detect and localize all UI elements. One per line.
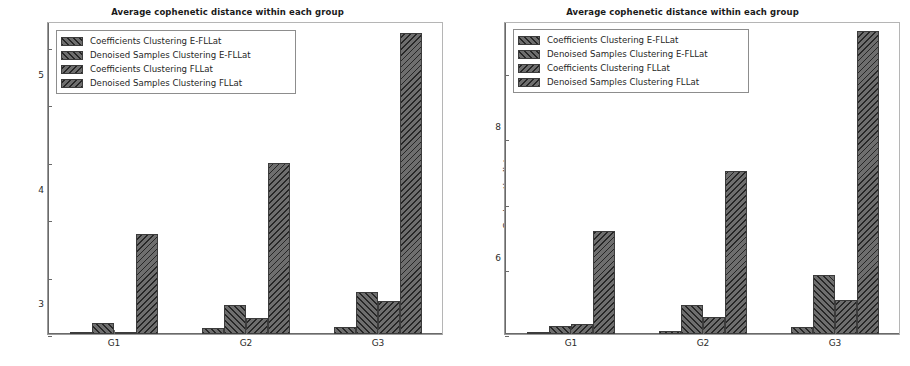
legend-item: Coefficients Clustering FLLat — [518, 61, 742, 75]
x-tick-label: G2 — [697, 338, 710, 348]
y-tick-mark: 5 — [48, 49, 52, 50]
legend-swatch-icon — [518, 64, 540, 73]
bar — [70, 332, 92, 334]
bar — [136, 234, 158, 335]
legend-label: Denoised Samples Clustering E-FLLat — [547, 50, 708, 59]
y-tick-mark: 1 — [48, 279, 52, 280]
bar — [268, 163, 290, 334]
y-tick-mark: 4 — [505, 206, 509, 207]
legend-item: Coefficients Clustering E-FLLat — [518, 33, 742, 47]
x-tick-label: G1 — [565, 338, 578, 348]
bar — [334, 327, 356, 334]
legend-swatch-icon — [61, 37, 83, 46]
x-tick-label: G3 — [829, 338, 842, 348]
bar — [114, 332, 136, 334]
legend-item: Denoised Samples Clustering E-FLLat — [61, 48, 289, 62]
y-axis-line-left — [48, 23, 49, 334]
y-tick-mark: 6 — [505, 140, 509, 141]
bar — [857, 31, 879, 334]
bar — [356, 292, 378, 334]
y-tick-mark: 2 — [505, 271, 509, 272]
x-tick-mark: G3 — [378, 330, 379, 334]
legend-swatch-icon — [61, 79, 83, 88]
legend-left: Coefficients Clustering E-FLLatDenoised … — [56, 30, 296, 94]
chart-title-left: Average cophenetic distance within each … — [0, 7, 455, 17]
y-axis-line-right — [505, 23, 506, 334]
legend-label: Denoised Samples Clustering FLLat — [547, 78, 699, 87]
bar — [400, 33, 422, 335]
y-tick-label: 3 — [38, 299, 44, 309]
bar — [571, 324, 593, 334]
legend-item: Coefficients Clustering E-FLLat — [61, 34, 289, 48]
chart-panel-left: Average cophenetic distance within each … — [0, 0, 455, 366]
bar — [813, 275, 835, 334]
legend-swatch-icon — [518, 36, 540, 45]
legend-label: Coefficients Clustering FLLat — [90, 65, 213, 74]
bar — [224, 305, 246, 334]
legend-label: Denoised Samples Clustering FLLat — [90, 79, 242, 88]
bar — [246, 318, 268, 334]
legend-swatch-icon — [61, 65, 83, 74]
figure-two-bar-charts: Average cophenetic distance within each … — [0, 0, 910, 366]
legend-right: Coefficients Clustering E-FLLatDenoised … — [513, 29, 749, 93]
chart-panel-right: Average cophenetic distance within each … — [455, 0, 910, 366]
bar — [725, 171, 747, 334]
x-tick-mark: G1 — [571, 330, 572, 334]
legend-swatch-icon — [518, 78, 540, 87]
bar — [659, 331, 681, 334]
bar — [835, 300, 857, 334]
legend-item: Coefficients Clustering FLLat — [61, 62, 289, 76]
legend-label: Denoised Samples Clustering E-FLLat — [90, 51, 251, 60]
bar — [202, 328, 224, 334]
y-tick-mark: 4 — [48, 106, 52, 107]
y-tick-mark: 0 — [505, 336, 509, 337]
legend-label: Coefficients Clustering FLLat — [547, 64, 670, 73]
bar — [92, 323, 114, 334]
x-tick-label: G3 — [372, 338, 385, 348]
bar — [549, 326, 571, 334]
legend-swatch-icon — [61, 51, 83, 60]
bar — [378, 301, 400, 334]
y-tick-mark: 0 — [48, 336, 52, 337]
legend-label: Coefficients Clustering E-FLLat — [90, 37, 222, 46]
legend-item: Denoised Samples Clustering FLLat — [61, 76, 289, 90]
x-tick-mark: G3 — [835, 330, 836, 334]
y-tick-label: 6 — [495, 253, 501, 263]
legend-label: Coefficients Clustering E-FLLat — [547, 36, 679, 45]
bar — [527, 332, 549, 334]
legend-swatch-icon — [518, 50, 540, 59]
y-tick-label: 5 — [38, 70, 44, 80]
y-tick-label: 8 — [495, 122, 501, 132]
y-tick-label: 4 — [38, 185, 44, 195]
bar — [681, 305, 703, 334]
chart-title-right: Average cophenetic distance within each … — [455, 7, 910, 17]
x-tick-mark: G2 — [703, 330, 704, 334]
x-tick-mark: G1 — [114, 330, 115, 334]
x-tick-label: G2 — [240, 338, 253, 348]
legend-item: Denoised Samples Clustering E-FLLat — [518, 47, 742, 61]
x-tick-mark: G2 — [246, 330, 247, 334]
y-tick-mark: 2 — [48, 221, 52, 222]
bar — [791, 327, 813, 334]
x-tick-label: G1 — [108, 338, 121, 348]
y-tick-mark: 8 — [505, 75, 509, 76]
legend-item: Denoised Samples Clustering FLLat — [518, 75, 742, 89]
bar — [703, 317, 725, 334]
bar — [593, 231, 615, 334]
y-tick-mark: 3 — [48, 164, 52, 165]
